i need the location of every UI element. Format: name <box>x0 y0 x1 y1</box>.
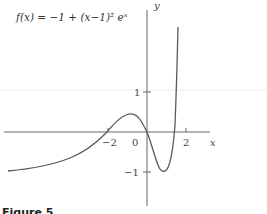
x-tick-label-2: 2 <box>183 137 189 148</box>
x-tick-label-0: 0 <box>132 137 138 148</box>
function-curve <box>8 27 178 171</box>
function-formula: f(x) = −1 + (x−1)² eˣ <box>16 11 128 23</box>
figure: −2 0 2 x 1 −1 y f(x) = −1 + (x−1)² eˣ Fi… <box>0 0 267 214</box>
plot: −2 0 2 x 1 −1 y <box>0 0 267 214</box>
figure-caption: Figure 5 <box>2 206 53 214</box>
y-tick-label-1: 1 <box>134 87 140 98</box>
x-tick-label-neg2: −2 <box>102 137 117 148</box>
x-axis-label: x <box>210 137 216 148</box>
y-tick-label-neg1: −1 <box>124 167 139 178</box>
y-axis-label: y <box>153 0 160 11</box>
